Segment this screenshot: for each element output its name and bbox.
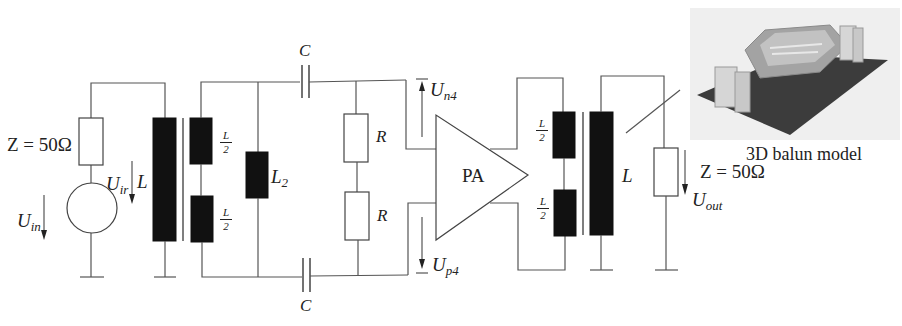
resistor-bottom <box>345 192 369 240</box>
inset-pointer-line <box>626 90 680 133</box>
balun-3d-model-image <box>690 8 900 140</box>
power-amplifier <box>406 78 565 275</box>
load-impedance-resistor <box>654 148 678 196</box>
frac-den: 2 <box>537 210 549 221</box>
u-out-sub: out <box>706 198 723 213</box>
resistor-top <box>344 114 368 162</box>
u-n4-sub: n4 <box>444 88 457 103</box>
u-ir-label: Uir <box>106 174 128 196</box>
l2-symbol: L <box>271 166 282 187</box>
output-balun-primary-top-coil <box>553 112 575 158</box>
output-primary-bottom-label: L2 <box>537 196 549 221</box>
frac-den: 2 <box>220 144 232 155</box>
input-balun-primary-coil <box>153 118 176 241</box>
output-balun-primary-bottom-coil <box>554 190 576 236</box>
u-in-symbol: U <box>17 210 31 231</box>
u-ir-sub: ir <box>120 182 129 197</box>
capacitor-bottom-label: C <box>300 297 311 314</box>
source-impedance-resistor <box>79 118 103 165</box>
frac-num: L <box>220 207 232 218</box>
input-balun-secondary-bottom-coil <box>191 196 213 242</box>
source-impedance-label: Z = 50Ω <box>7 135 72 154</box>
output-balun-secondary-coil <box>590 112 613 235</box>
connector-left <box>715 67 737 107</box>
frac-num: L <box>536 118 548 129</box>
u-n4-symbol: U <box>430 79 444 100</box>
inset-caption: 3D balun model <box>746 144 862 165</box>
frac-den: 2 <box>536 132 548 143</box>
u-in-sub: in <box>31 219 41 234</box>
input-primary-l-label: L <box>137 172 148 191</box>
frac-num: L <box>537 196 549 207</box>
output-secondary-l-label: L <box>622 166 633 185</box>
input-secondary-top-label: L2 <box>220 130 232 155</box>
u-p4-symbol: U <box>432 254 446 275</box>
resistor-top-label: R <box>376 128 386 145</box>
pa-label: PA <box>462 166 485 185</box>
l2-sub: 2 <box>282 175 289 190</box>
l2-label: L2 <box>271 167 288 189</box>
u-in-label: Uin <box>17 211 41 233</box>
capacitor-top-label: C <box>299 42 310 59</box>
u-p4-label: Up4 <box>432 255 459 277</box>
resistor-bottom-label: R <box>377 207 387 224</box>
shunt-inductor-l2 <box>246 152 268 198</box>
u-n4-label: Un4 <box>430 80 457 102</box>
input-secondary-bottom-label: L2 <box>220 207 232 232</box>
u-out-symbol: U <box>692 189 706 210</box>
load-branch <box>654 148 688 270</box>
input-balun-secondary-top-coil <box>190 118 212 164</box>
u-ir-symbol: U <box>106 173 120 194</box>
frac-den: 2 <box>220 221 232 232</box>
output-primary-top-label: L2 <box>536 118 548 143</box>
frac-num: L <box>220 130 232 141</box>
u-p4-sub: p4 <box>446 263 459 278</box>
u-out-label: Uout <box>692 190 722 212</box>
